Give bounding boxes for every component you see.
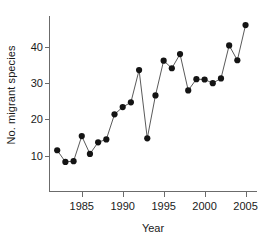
data-point: [201, 76, 207, 82]
data-point: [177, 51, 183, 57]
data-series: [49, 16, 257, 192]
data-point: [103, 136, 109, 142]
data-point: [234, 57, 240, 63]
y-tick-label-40: 40: [31, 41, 43, 53]
chart-figure: No. migrant species 10203040 19851990199…: [0, 0, 275, 245]
data-point: [210, 80, 216, 86]
x-tick-1990: [123, 192, 124, 197]
x-tick-2005: [246, 192, 247, 197]
data-point: [111, 111, 117, 117]
data-point: [161, 58, 167, 64]
y-axis-title-text: No. migrant species: [5, 45, 17, 144]
x-axis-title-text: Year: [142, 222, 164, 234]
plot-area: 10203040 19851990199520002005: [49, 16, 257, 192]
data-point: [54, 147, 60, 153]
y-tick-label-10: 10: [31, 150, 43, 162]
y-tick-label-30: 30: [31, 77, 43, 89]
x-tick-2000: [205, 192, 206, 197]
x-tick-label-1995: 1995: [151, 200, 175, 212]
series-line: [57, 25, 245, 162]
x-tick-1995: [164, 192, 165, 197]
y-axis-title: No. migrant species: [0, 0, 22, 190]
data-point: [169, 65, 175, 71]
data-point: [62, 159, 68, 165]
data-point: [70, 158, 76, 164]
data-point: [226, 42, 232, 48]
data-point: [95, 139, 101, 145]
data-point: [128, 99, 134, 105]
x-tick-1985: [82, 192, 83, 197]
data-point: [185, 87, 191, 93]
data-point: [79, 133, 85, 139]
data-point: [242, 22, 248, 28]
data-point: [152, 92, 158, 98]
data-point: [193, 76, 199, 82]
x-tick-label-2005: 2005: [233, 200, 257, 212]
series-markers: [54, 22, 249, 165]
x-axis-title: Year: [49, 222, 257, 234]
data-point: [136, 67, 142, 73]
x-tick-label-2000: 2000: [192, 200, 216, 212]
y-tick-label-20: 20: [31, 113, 43, 125]
data-point: [144, 135, 150, 141]
data-point: [87, 151, 93, 157]
x-tick-label-1990: 1990: [110, 200, 134, 212]
x-tick-label-1985: 1985: [70, 200, 94, 212]
data-point: [218, 75, 224, 81]
data-point: [120, 104, 126, 110]
